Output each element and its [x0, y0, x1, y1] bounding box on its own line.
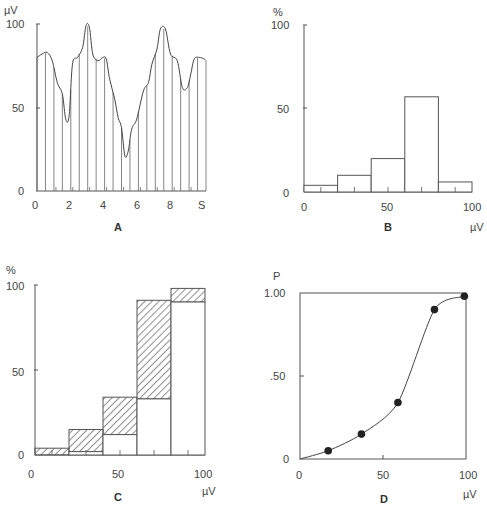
panel-b-ytick-100: 100 — [271, 19, 289, 31]
panel-d-title: D — [380, 493, 388, 505]
panel-d-frame — [300, 293, 466, 459]
panel-d-xtick-100: 100 — [459, 469, 477, 481]
panel-a-sample-lines — [37, 27, 206, 191]
panel-a-ylabel: µV — [4, 4, 18, 16]
panel-c-ytick-100: 100 — [6, 280, 24, 292]
panel-c-xtick-100: 100 — [194, 468, 212, 480]
hatched-bar-segment — [137, 300, 171, 399]
panel-b-xtick-50: 50 — [381, 201, 393, 213]
hatched-bar-segment — [171, 288, 205, 302]
panel-b: % 100 50 0 0 50 100 B µV — [271, 6, 484, 233]
panel-a-xtick-4: 4 — [100, 199, 106, 211]
panel-a-xtick-6: 6 — [134, 199, 140, 211]
panel-a-title: A — [114, 221, 122, 233]
panel-a-ytick-0: 0 — [18, 185, 24, 197]
hatched-bar-segment — [103, 397, 137, 434]
panel-a-ytick-100: 100 — [6, 18, 24, 30]
data-point-marker — [461, 293, 469, 301]
panel-b-xlabel: µV — [470, 221, 484, 233]
panel-c-ylabel: % — [6, 264, 16, 276]
panel-c: % 100 50 0 0 50 100 C µV — [6, 264, 216, 503]
panel-a-xtick-0: 0 — [32, 199, 38, 211]
panel-d-xtick-0: 0 — [296, 469, 302, 481]
panel-b-bars — [304, 97, 472, 192]
histogram-bar — [405, 97, 439, 192]
panel-b-ytick-0: 0 — [283, 187, 289, 199]
open-bar-segment — [171, 302, 205, 455]
panel-a-xtick-s: S — [198, 199, 205, 211]
panel-b-ytick-50: 50 — [277, 103, 289, 115]
panel-d-xtick-50: 50 — [377, 469, 389, 481]
data-point-marker — [394, 399, 402, 407]
panel-c-xtick-0: 0 — [28, 468, 34, 480]
panel-b-xtick-0: 0 — [301, 201, 307, 213]
open-bar-segment — [137, 399, 171, 455]
panel-a: µV 100 50 0 0 2 4 6 8 S A — [4, 4, 206, 233]
data-point-marker — [358, 430, 366, 438]
panel-d-markers — [324, 293, 468, 455]
panel-d-ylabel: P — [273, 270, 280, 282]
figure: µV 100 50 0 0 2 4 6 8 S A % 100 50 0 0 5… — [0, 0, 487, 511]
panel-c-ytick-0: 0 — [18, 449, 24, 461]
panel-a-xtick-2: 2 — [66, 199, 72, 211]
data-point-marker — [324, 447, 332, 455]
panel-c-bars — [35, 288, 205, 455]
panel-a-ytick-50: 50 — [12, 102, 24, 114]
panel-c-title: C — [114, 491, 122, 503]
panel-d-curve — [300, 296, 464, 459]
panel-c-xtick-50: 50 — [112, 468, 124, 480]
panel-d-ytick-0: 0 — [283, 453, 289, 465]
panel-a-xtick-8: 8 — [167, 199, 173, 211]
panel-d: P 1.00 .50 0 0 50 100 D µV — [264, 270, 477, 505]
panel-b-xtick-100: 100 — [463, 201, 481, 213]
hatched-bar-segment — [69, 430, 103, 452]
panel-b-ylabel: % — [273, 6, 283, 18]
panel-c-xlabel: µV — [202, 485, 216, 497]
data-point-marker — [431, 306, 439, 314]
panel-b-title: B — [384, 221, 392, 233]
panel-d-ytick-050: .50 — [270, 370, 285, 382]
panel-d-ytick-1: 1.00 — [264, 287, 285, 299]
histogram-bar — [371, 159, 405, 192]
panel-c-ytick-50: 50 — [12, 366, 24, 378]
panel-d-xlabel: µV — [463, 488, 477, 500]
